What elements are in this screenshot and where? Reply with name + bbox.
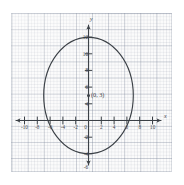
x-tick-label-8: 8 xyxy=(134,124,146,130)
center-point-marker xyxy=(87,94,90,97)
x-tick-label-6: 6 xyxy=(121,124,133,130)
x-tick-label-2: 2 xyxy=(95,124,107,130)
figure-screen: x y (0, 3) -10 -8 -6 -4 -2 0 2 4 6 8 10 … xyxy=(0,0,184,185)
y-axis-label: y xyxy=(90,16,93,22)
x-axis-label: x xyxy=(164,113,167,119)
point-label: (0, 3) xyxy=(91,91,104,98)
y-tick-label-10: 10 xyxy=(76,51,88,57)
y-tick-label--4: -4 xyxy=(76,151,88,157)
y-tick-label-8: 8 xyxy=(77,67,88,73)
y-tick-label--6: -6 xyxy=(76,164,88,170)
x-tick-label-4: 4 xyxy=(108,124,120,130)
y-tick-label-4: 4 xyxy=(77,101,88,107)
x-tick-label-10: 10 xyxy=(146,124,159,130)
x-tick-label-0: 0 xyxy=(81,124,91,130)
y-tick-label-6: 6 xyxy=(77,84,88,90)
y-tick-label--2: -2 xyxy=(76,134,88,140)
y-tick-label-12: 12 xyxy=(76,34,88,40)
